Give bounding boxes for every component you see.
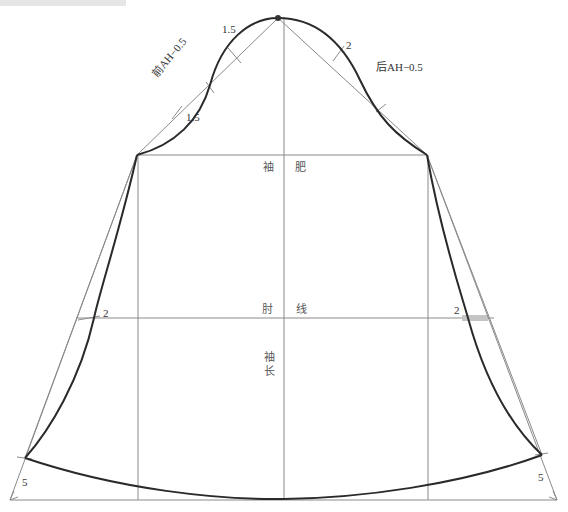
hem-offset-left-label: 5 (22, 477, 28, 488)
bicep-label-left: 袖 (263, 162, 274, 173)
sleeve-length-label-2: 长 (264, 366, 275, 377)
elbow-offset-left-label: 2 (103, 308, 109, 319)
sleeve-length-label-1: 袖 (264, 352, 275, 363)
front-upper-offset-label: 1.5 (222, 24, 236, 35)
elbow-label-left: 肘 (262, 304, 273, 315)
elbow-label-right: 线 (296, 304, 307, 315)
back-inner-guide (427, 155, 542, 455)
front-lower-offset-label: 1.5 (186, 112, 200, 123)
back-ah-label: 后AH−0.5 (376, 62, 423, 73)
back-upper-offset-tick (333, 46, 344, 61)
back-upper-offset-label: 2 (346, 40, 352, 51)
apex-marker (275, 15, 281, 21)
hem-offset-right-label: 5 (538, 472, 544, 483)
sleeve-pattern-drawing (0, 0, 568, 512)
construction-lines (10, 18, 557, 500)
back-ah-line (278, 18, 427, 155)
bicep-label-right: 肥 (295, 162, 306, 173)
front-inner-guide (25, 155, 137, 458)
elbow-offset-right-label: 2 (454, 305, 460, 316)
front-ah-line (137, 18, 278, 155)
